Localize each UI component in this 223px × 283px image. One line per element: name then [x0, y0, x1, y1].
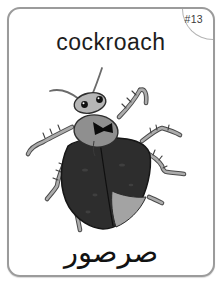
card-title: cockroach: [9, 29, 213, 56]
card-number: #13: [185, 13, 203, 25]
flashcard: #13 cockroach صرصور: [7, 7, 215, 277]
flashcard-page: #13 cockroach صرصور: [0, 0, 223, 283]
card-translation-arabic: صرصور: [9, 237, 213, 269]
